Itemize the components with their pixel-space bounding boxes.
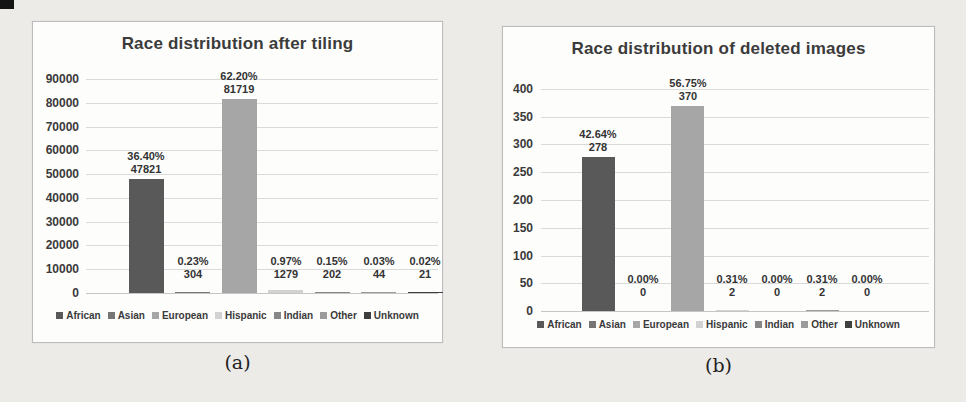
plot-area-right: 05010015020025030035040042.64%2780.00%05… — [503, 27, 934, 347]
y-axis-tick-label: 10000 — [33, 262, 79, 276]
legend-swatch-european — [633, 321, 640, 328]
y-axis-tick-label: 40000 — [33, 191, 79, 205]
count-label: 47821 — [116, 163, 176, 176]
y-axis-tick-label: 300 — [503, 137, 533, 151]
bar-african — [582, 157, 615, 311]
chart-panel-left: Race distribution after tiling 010000200… — [32, 21, 443, 343]
y-axis-tick-label: 150 — [503, 221, 533, 235]
y-axis-tick-label: 400 — [503, 82, 533, 96]
legend-item-unknown: Unknown — [845, 319, 900, 330]
percent-label: 56.75% — [658, 77, 718, 90]
plot-area-left: 0100002000030000400005000060000700008000… — [33, 22, 442, 342]
legend-item-asian: Asian — [589, 319, 626, 330]
bar-label-asian: 0.23%304 — [163, 255, 223, 281]
legend-item-hispanic: Hispanic — [696, 319, 748, 330]
legend-item-european: European — [633, 319, 689, 330]
count-label: 0 — [613, 286, 673, 299]
legend-item-african: African — [537, 319, 581, 330]
legend-label: European — [643, 319, 689, 330]
y-axis-tick-label: 90000 — [33, 72, 79, 86]
gridline — [541, 117, 929, 118]
y-axis-tick-label: 70000 — [33, 120, 79, 134]
legend-item-indian: Indian — [755, 319, 794, 330]
legend-swatch-unknown — [845, 321, 852, 328]
legend-label: Asian — [599, 319, 626, 330]
legend-item-unknown: Unknown — [364, 310, 419, 321]
y-axis-tick-label: 100 — [503, 249, 533, 263]
bar-european — [222, 99, 257, 293]
percent-label: 42.64% — [568, 128, 628, 141]
legend-swatch-european — [152, 312, 159, 319]
bar-other — [806, 310, 839, 311]
legend-label: Other — [330, 310, 357, 321]
legend-item-other: Other — [801, 319, 838, 330]
gridline — [86, 103, 438, 104]
count-label: 304 — [163, 268, 223, 281]
legend-swatch-indian — [274, 312, 281, 319]
bar-unknown — [408, 292, 443, 293]
legend-right: AfricanAsianEuropeanHispanicIndianOtherU… — [503, 319, 934, 330]
legend-swatch-hispanic — [215, 312, 222, 319]
legend-item-european: European — [152, 310, 208, 321]
count-label: 278 — [568, 141, 628, 154]
bar-label-unknown: 0.02%21 — [395, 255, 455, 281]
count-label: 81719 — [209, 83, 269, 96]
gridline — [541, 311, 929, 312]
legend-item-african: African — [56, 310, 100, 321]
y-axis-tick-label: 20000 — [33, 238, 79, 252]
bar-african — [129, 179, 164, 293]
legend-swatch-african — [56, 312, 63, 319]
bar-label-unknown: 0.00%0 — [837, 273, 897, 299]
bar-other — [361, 292, 396, 293]
legend-swatch-hispanic — [696, 321, 703, 328]
percent-label: 0.00% — [613, 273, 673, 286]
y-axis-tick-label: 200 — [503, 193, 533, 207]
count-label: 21 — [395, 268, 455, 281]
percent-label: 62.20% — [209, 70, 269, 83]
y-axis-tick-label: 30000 — [33, 215, 79, 229]
legend-left: AfricanAsianEuropeanHispanicIndianOtherU… — [33, 310, 442, 321]
count-label: 370 — [658, 90, 718, 103]
legend-label: Unknown — [855, 319, 900, 330]
y-axis-tick-label: 250 — [503, 165, 533, 179]
bar-label-african: 36.40%47821 — [116, 150, 176, 176]
y-axis-tick-label: 50 — [503, 276, 533, 290]
legend-swatch-african — [537, 321, 544, 328]
percent-label: 0.00% — [837, 273, 897, 286]
y-axis-tick-label: 50000 — [33, 167, 79, 181]
legend-label: Other — [811, 319, 838, 330]
bar-label-european: 62.20%81719 — [209, 70, 269, 96]
bar-label-asian: 0.00%0 — [613, 273, 673, 299]
y-axis-tick-label: 350 — [503, 110, 533, 124]
legend-label: Indian — [284, 310, 313, 321]
legend-label: Asian — [118, 310, 145, 321]
figure-canvas: Race distribution after tiling 010000200… — [0, 0, 966, 402]
count-label: 0 — [837, 286, 897, 299]
legend-swatch-asian — [108, 312, 115, 319]
legend-item-indian: Indian — [274, 310, 313, 321]
bar-hispanic — [268, 290, 303, 293]
legend-item-other: Other — [320, 310, 357, 321]
y-axis-tick-label: 60000 — [33, 143, 79, 157]
legend-swatch-other — [320, 312, 327, 319]
y-axis-tick-label: 0 — [33, 286, 79, 300]
legend-item-hispanic: Hispanic — [215, 310, 267, 321]
gridline — [86, 293, 438, 294]
bar-hispanic — [716, 310, 749, 311]
legend-label: Unknown — [374, 310, 419, 321]
legend-label: European — [162, 310, 208, 321]
legend-label: African — [547, 319, 581, 330]
legend-label: Hispanic — [706, 319, 748, 330]
bar-indian — [315, 292, 350, 293]
bar-european — [671, 106, 704, 311]
legend-item-asian: Asian — [108, 310, 145, 321]
percent-label: 36.40% — [116, 150, 176, 163]
percent-label: 0.23% — [163, 255, 223, 268]
bar-label-african: 42.64%278 — [568, 128, 628, 154]
legend-label: African — [66, 310, 100, 321]
chart-panel-right: Race distribution of deleted images 0501… — [502, 26, 935, 348]
caption-b: (b) — [502, 354, 935, 376]
legend-label: Indian — [765, 319, 794, 330]
scan-artifact — [0, 0, 14, 9]
legend-swatch-unknown — [364, 312, 371, 319]
